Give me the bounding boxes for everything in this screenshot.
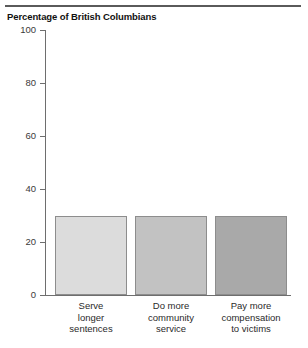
bar [55, 216, 127, 296]
x-category-label: Pay morecompensationto victims [206, 300, 296, 335]
x-category-label: Servelongersentences [46, 300, 136, 335]
bar [135, 216, 207, 296]
bar-chart-figure: Percentage of British Columbians 0204060… [0, 0, 308, 348]
x-category-label-line: to victims [206, 323, 296, 335]
x-category-label-line: Do more [126, 300, 216, 312]
x-category-label-line: community [126, 312, 216, 324]
x-category-label-line: Serve [46, 300, 136, 312]
chart-title: Percentage of British Columbians [7, 11, 156, 22]
bar [215, 216, 287, 296]
x-category-label-line: service [126, 323, 216, 335]
x-axis-line [45, 295, 291, 296]
x-category-label-line: sentences [46, 323, 136, 335]
bars-layer [0, 30, 308, 295]
x-category-label-line: compensation [206, 312, 296, 324]
x-category-label-line: longer [46, 312, 136, 324]
title-rule [5, 5, 301, 7]
x-category-label: Do morecommunityservice [126, 300, 216, 335]
x-category-label-line: Pay more [206, 300, 296, 312]
y-tick-mark [40, 295, 46, 296]
